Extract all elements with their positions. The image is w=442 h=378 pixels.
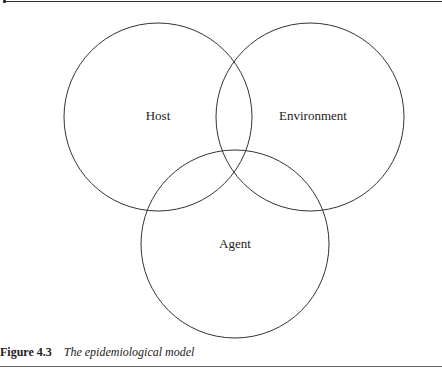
figure-caption: Figure 4.3The epidemiological model (0, 345, 194, 360)
figure-title: The epidemiological model (64, 345, 195, 359)
figure-number: Figure 4.3 (0, 345, 52, 359)
venn-diagram: Host Environment Agent (0, 0, 442, 378)
bottom-rule (0, 366, 442, 367)
agent-label: Agent (219, 236, 251, 251)
environment-label: Environment (279, 108, 347, 123)
host-label: Host (146, 108, 171, 123)
